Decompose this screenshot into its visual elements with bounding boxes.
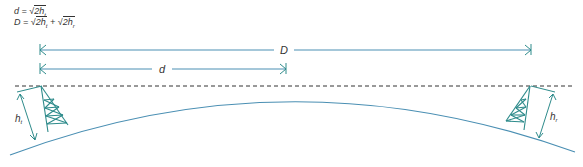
hr-extension-line <box>531 86 555 92</box>
ht-extension-line <box>17 86 42 92</box>
ht-line <box>20 94 35 140</box>
D-label: D <box>280 44 288 56</box>
earth-surface-curve <box>10 102 575 155</box>
d-distance-arrow: d <box>40 63 286 75</box>
ht-height-arrow: ht <box>15 86 42 140</box>
hr-label: hr <box>550 111 559 123</box>
d-label: d <box>159 63 166 75</box>
ht-label: ht <box>15 113 23 125</box>
hr-height-arrow: hr <box>531 86 559 138</box>
radio-horizon-diagram: D d ht <box>0 0 583 167</box>
transmitter-tower-icon <box>41 86 68 132</box>
hr-label-sub: r <box>556 117 559 123</box>
receiver-tower-icon <box>506 86 530 130</box>
D-distance-arrow: D <box>40 44 531 56</box>
ht-label-sub: t <box>21 119 23 125</box>
